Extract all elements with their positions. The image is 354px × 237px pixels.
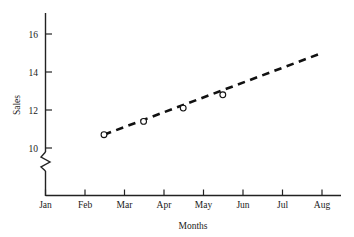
- data-point-marker: [180, 105, 186, 111]
- y-tick-label-16: 16: [29, 30, 39, 40]
- x-tick-label-apr: Apr: [157, 200, 173, 210]
- trend-line-dashed: [104, 53, 322, 135]
- sales-months-line-chart: 16 14 12 10 Jan Feb Mar Apr May Jun Jul …: [0, 0, 354, 237]
- x-tick-label-may: May: [195, 200, 213, 210]
- y-axis-title: Sales: [12, 95, 22, 115]
- chart-canvas: 16 14 12 10 Jan Feb Mar Apr May Jun Jul …: [0, 0, 354, 237]
- x-tick-label-aug: Aug: [314, 200, 331, 210]
- y-tick-label-12: 12: [29, 106, 39, 116]
- x-tick-label-mar: Mar: [117, 200, 134, 210]
- data-point-marker: [141, 119, 147, 125]
- y-axis-break-icon: [41, 152, 50, 171]
- x-tick-label-jun: Jun: [236, 200, 249, 210]
- y-tick-label-14: 14: [29, 68, 39, 78]
- x-tick-label-feb: Feb: [78, 200, 93, 210]
- x-tick-label-jul: Jul: [277, 200, 288, 210]
- data-point-marker: [101, 132, 107, 138]
- x-tick-label-jan: Jan: [39, 200, 52, 210]
- x-axis-title: Months: [178, 221, 207, 231]
- y-tick-label-10: 10: [29, 144, 39, 154]
- data-point-marker: [220, 92, 226, 98]
